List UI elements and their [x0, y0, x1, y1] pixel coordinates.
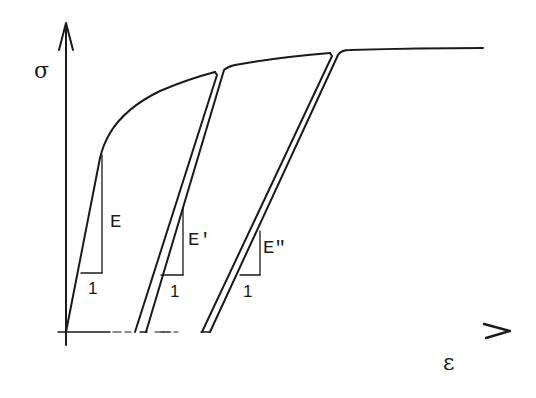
slope-triangle-e-double-prime — [240, 231, 260, 275]
run-label-2: 1 — [170, 283, 179, 300]
x-axis — [58, 324, 510, 338]
stress-axis-label: σ — [34, 60, 49, 82]
run-label-3: 1 — [243, 283, 252, 300]
modulus-label-e: E — [110, 213, 121, 232]
stress-strain-diagram — [0, 0, 536, 398]
unloading-line-2 — [202, 53, 332, 332]
y-axis — [59, 23, 73, 345]
strain-axis-label: ε — [443, 352, 454, 374]
modulus-label-e-prime: E' — [188, 231, 211, 250]
x-axis-arrow-icon — [484, 324, 510, 338]
run-label-1: 1 — [88, 280, 97, 297]
modulus-label-e-double-prime: E" — [263, 239, 286, 258]
slope-triangle-e — [81, 155, 102, 273]
